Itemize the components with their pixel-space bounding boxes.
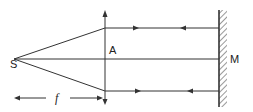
arrow-right-icon [97, 96, 103, 101]
parallel-rays [105, 28, 219, 91]
label-lens: A [109, 44, 117, 56]
arrow-right-icon [135, 89, 141, 94]
focal-length-dimension [14, 96, 103, 101]
label-mirror: M [230, 53, 239, 65]
arrow-left-icon [187, 89, 193, 94]
ray-upper [14, 28, 105, 59]
arrow-right-icon [133, 26, 139, 31]
label-source: S [10, 58, 17, 70]
plane-mirror [219, 10, 227, 107]
arrow-left-icon [180, 26, 186, 31]
arrow-left-icon [14, 96, 20, 101]
ray-lower [14, 59, 105, 91]
optics-diagram: S A M f [0, 0, 253, 112]
lens-arrow-up-icon [103, 10, 108, 17]
lens-arrow-down-icon [103, 99, 108, 105]
label-focal-length: f [55, 91, 60, 105]
diverging-rays [14, 28, 105, 91]
